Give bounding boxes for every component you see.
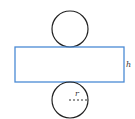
height-label: h <box>126 60 131 69</box>
cylinder-net-diagram: h r <box>0 0 135 119</box>
top-circle-base <box>52 11 88 47</box>
lateral-surface-rectangle <box>15 47 124 82</box>
radius-label: r <box>75 89 80 98</box>
